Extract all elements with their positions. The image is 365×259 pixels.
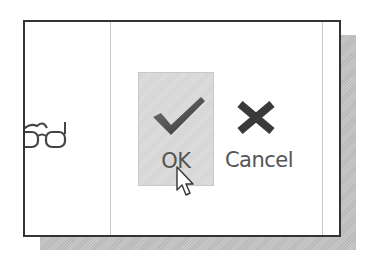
mouse-cursor-icon <box>176 166 198 200</box>
dialog-toolbar: OK Cancel <box>23 20 341 237</box>
divider-right <box>322 22 323 235</box>
cancel-button[interactable]: Cancel <box>221 72 297 186</box>
divider-left <box>110 22 111 235</box>
cancel-label: Cancel <box>221 148 297 172</box>
x-icon <box>237 101 275 134</box>
glasses-icon[interactable] <box>25 118 70 150</box>
checkmark-icon <box>151 95 207 137</box>
